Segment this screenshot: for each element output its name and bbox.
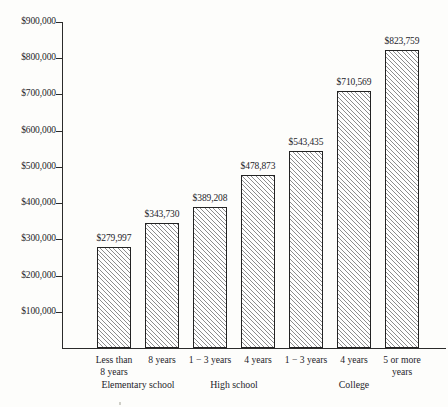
y-axis-tick (56, 167, 63, 168)
group-label: College (294, 379, 414, 390)
y-axis-tick (56, 22, 63, 23)
y-axis-tick-label: $400,000 (0, 197, 56, 207)
bar (241, 175, 275, 348)
bar-value-label: $279,997 (74, 233, 154, 243)
y-axis-tick-label: $700,000 (0, 88, 56, 98)
category-label-line: 8 years (82, 366, 146, 378)
y-axis-tick-label: $300,000 (0, 233, 56, 243)
x-axis-line (62, 348, 446, 349)
bar-value-label: $823,759 (362, 36, 442, 46)
bar-value-label: $343,730 (122, 209, 202, 219)
scan-speck (119, 402, 121, 405)
y-axis-tick-label: $900,000 (0, 16, 56, 26)
y-axis-tick (56, 203, 63, 204)
bar-value-label: $710,569 (314, 77, 394, 87)
bar (145, 223, 179, 348)
bar (193, 207, 227, 348)
bar-value-label: $478,873 (218, 161, 298, 171)
bar (97, 247, 131, 348)
y-axis-tick (56, 131, 63, 132)
group-label: High school (174, 379, 294, 390)
bar (385, 50, 419, 348)
y-axis-tick-label: $800,000 (0, 52, 56, 62)
y-axis-tick (56, 94, 63, 95)
y-axis-tick (56, 58, 63, 59)
bar-value-label: $389,208 (170, 193, 250, 203)
bar (337, 91, 371, 348)
y-axis-tick-label: $600,000 (0, 125, 56, 135)
y-axis-tick (56, 239, 63, 240)
y-axis-tick-label: $500,000 (0, 161, 56, 171)
y-axis-tick (56, 312, 63, 313)
y-axis-tick (56, 276, 63, 277)
y-axis-tick-label: $200,000 (0, 270, 56, 280)
y-axis-tick-label: $100,000 (0, 306, 56, 316)
category-label-line: years (370, 366, 434, 378)
y-axis-line (62, 22, 63, 349)
bar (289, 151, 323, 348)
bar-value-label: $543,435 (266, 137, 346, 147)
bar-chart: $900,000$800,000$700,000$600,000$500,000… (0, 0, 448, 407)
category-label: 5 or moreyears (370, 354, 434, 377)
category-label-line: 5 or more (370, 354, 434, 366)
